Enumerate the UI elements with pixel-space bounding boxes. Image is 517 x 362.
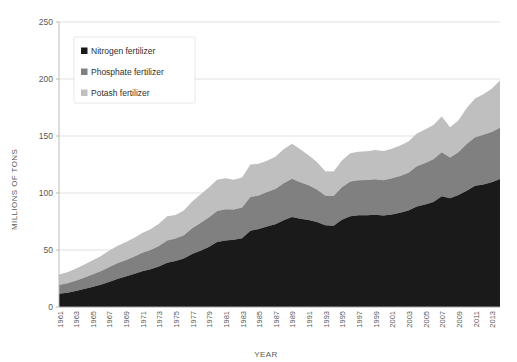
x-tick-label: 1995 xyxy=(338,311,347,328)
x-tick-label: 1969 xyxy=(122,311,131,328)
legend-swatch-nitrogen xyxy=(81,48,88,55)
x-tick-label: 1991 xyxy=(305,311,314,328)
x-tick-label: 1987 xyxy=(272,311,281,328)
x-tick-label: 1993 xyxy=(322,311,331,328)
y-tick-label: 150 xyxy=(39,131,53,141)
y-tick-label: 50 xyxy=(44,245,54,255)
legend-swatch-phosphate xyxy=(81,69,88,76)
legend-swatch-potash xyxy=(81,90,88,97)
x-tick-label: 1973 xyxy=(155,311,164,328)
x-tick-label: 1997 xyxy=(355,311,364,328)
y-tick-label: 250 xyxy=(39,17,53,27)
x-tick-label: 1961 xyxy=(56,311,65,328)
x-tick-label: 2001 xyxy=(388,311,397,328)
x-tick-label: 2011 xyxy=(472,311,481,327)
x-tick-label: 2007 xyxy=(438,311,447,328)
y-tick-label: 200 xyxy=(39,74,53,84)
x-tick-label: 1979 xyxy=(205,311,214,328)
x-tick-label: 1983 xyxy=(239,311,248,328)
legend-label-phosphate: Phosphate fertilizer xyxy=(91,67,164,77)
fertilizer-consumption-chart: 050100150200250 196119631965196719691971… xyxy=(0,0,517,362)
x-tick-label: 2009 xyxy=(455,311,464,328)
x-tick-label: 1965 xyxy=(89,311,98,328)
x-tick-label: 1985 xyxy=(255,311,264,328)
legend-item-potash[interactable]: Potash fertilizer xyxy=(81,88,150,98)
area-series-group xyxy=(59,81,500,307)
y-tick-label: 0 xyxy=(48,302,53,312)
y-tick-labels-group: 050100150200250 xyxy=(39,17,59,312)
x-tick-label: 1981 xyxy=(222,311,231,328)
legend: Nitrogen fertilizer Phosphate fertilizer… xyxy=(74,37,195,103)
x-tick-label: 2013 xyxy=(488,311,497,328)
x-tick-label: 1999 xyxy=(372,311,381,328)
x-axis-title: YEAR xyxy=(254,350,277,359)
chart-canvas: 050100150200250 196119631965196719691971… xyxy=(0,0,517,362)
legend-label-nitrogen: Nitrogen fertilizer xyxy=(91,46,155,56)
x-tick-labels-group: 1961196319651967196919711973197519771979… xyxy=(56,311,498,328)
legend-label-potash: Potash fertilizer xyxy=(91,88,150,98)
x-tick-label: 2003 xyxy=(405,311,414,328)
legend-item-phosphate[interactable]: Phosphate fertilizer xyxy=(81,67,164,77)
x-tick-label: 1971 xyxy=(139,311,148,328)
y-axis-title: MILLIONS OF TONS xyxy=(10,149,19,230)
legend-item-nitrogen[interactable]: Nitrogen fertilizer xyxy=(81,46,155,56)
x-tick-label: 1989 xyxy=(288,311,297,328)
x-tick-label: 2005 xyxy=(422,311,431,328)
y-tick-label: 100 xyxy=(39,188,53,198)
x-tick-label: 1963 xyxy=(72,311,81,328)
x-tick-label: 1977 xyxy=(189,311,198,328)
x-tick-label: 1967 xyxy=(105,311,114,328)
x-tick-label: 1975 xyxy=(172,311,181,328)
